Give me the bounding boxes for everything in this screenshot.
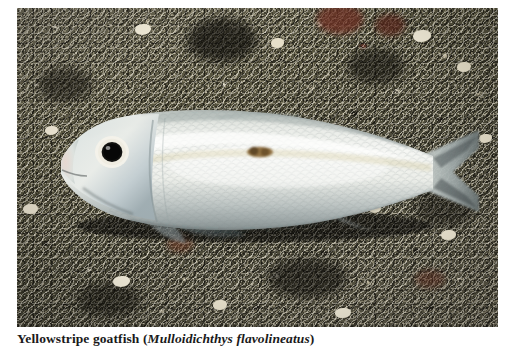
substrate-shadow: [37, 68, 93, 102]
fish-eye: [95, 136, 129, 168]
photograph: [17, 8, 498, 327]
caption-common-name: Yellowstripe goatfish: [17, 331, 139, 346]
red-rock-patch: [375, 14, 405, 36]
caudal-fin: [425, 130, 479, 212]
goatfish: [49, 104, 479, 244]
caption-scientific-name: Mulloidichthys flavolineatus: [148, 331, 310, 346]
goatfish-illustration: [49, 104, 479, 244]
lateral-spot: [247, 147, 273, 157]
caption-paren-open: (: [139, 331, 147, 346]
substrate-shadow: [347, 48, 405, 84]
figure-caption: Yellowstripe goatfish (Mulloidichthys fl…: [17, 331, 507, 347]
red-rock-patch: [415, 270, 445, 288]
substrate-shadow: [267, 258, 347, 298]
substrate-shadow: [77, 283, 141, 317]
caption-paren-close: ): [310, 331, 315, 346]
eye-highlight: [106, 146, 111, 150]
substrate-shadow: [187, 18, 257, 62]
